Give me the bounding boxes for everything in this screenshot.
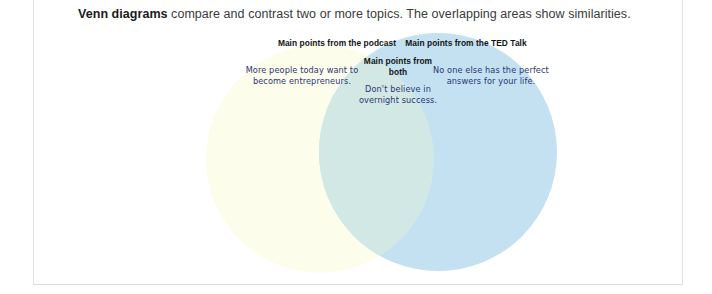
venn-heading-intersection: Main points from both — [358, 56, 438, 77]
venn-content-intersection: Don't believe in overnight success. — [358, 84, 438, 107]
venn-content-left: More people today want to become entrepr… — [240, 65, 364, 88]
venn-heading-left: Main points from the podcast — [275, 38, 399, 49]
venn-content-right: No one else has the perfect answers for … — [429, 65, 553, 88]
venn-heading-right: Main points from the TED Talk — [404, 38, 528, 49]
venn-diagram: Main points from the podcast More people… — [67, 0, 712, 285]
content-card: Venn diagrams compare and contrast two o… — [33, 0, 683, 285]
